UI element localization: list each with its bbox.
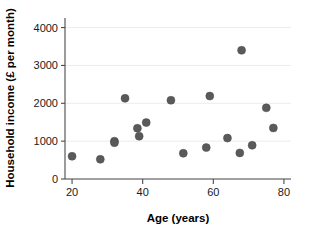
data-point [133, 124, 141, 132]
data-point [110, 139, 118, 147]
data-point [121, 94, 129, 102]
y-axis-title: Household income (£ per month) [4, 8, 16, 188]
y-tick-label-1000: 1000 [34, 135, 58, 147]
data-point [202, 144, 210, 152]
y-axis-ticks-group: 01000200030004000 [34, 22, 65, 185]
y-tick-label-3000: 3000 [34, 59, 58, 71]
x-tick-label-20: 20 [66, 186, 78, 198]
y-tick-label-0: 0 [52, 173, 58, 185]
x-axis-ticks-group: 20406080 [66, 179, 290, 198]
scatter-chart-figure: 01000200030004000 20406080 Age (years) H… [0, 0, 312, 230]
data-point [167, 96, 175, 104]
scatter-plot-svg: 01000200030004000 20406080 Age (years) H… [0, 0, 312, 230]
data-point [269, 124, 277, 132]
data-point [223, 134, 231, 142]
data-points-group [68, 46, 277, 163]
x-tick-label-60: 60 [207, 186, 219, 198]
data-point [135, 132, 143, 140]
y-tick-label-2000: 2000 [34, 97, 58, 109]
data-point [179, 149, 187, 157]
data-point [236, 149, 244, 157]
data-point [206, 92, 214, 100]
data-point [248, 141, 256, 149]
data-point [68, 152, 76, 160]
data-point [96, 155, 104, 163]
data-point [238, 46, 246, 54]
x-tick-label-80: 80 [278, 186, 290, 198]
x-axis-title: Age (years) [147, 212, 210, 224]
y-tick-label-4000: 4000 [34, 22, 58, 34]
data-point [142, 119, 150, 127]
x-tick-label-40: 40 [137, 186, 149, 198]
axes-lines-group [65, 18, 291, 179]
data-point [262, 104, 270, 112]
